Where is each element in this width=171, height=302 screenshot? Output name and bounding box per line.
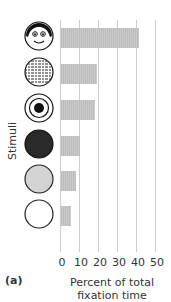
bar <box>61 136 80 156</box>
gridline <box>136 20 137 252</box>
gridline <box>117 20 118 252</box>
x-tick-label: 20 <box>93 256 107 269</box>
x-tick-label: 0 <box>59 256 66 269</box>
x-tick-label: 30 <box>112 256 126 269</box>
bullseye-stimulus-icon <box>24 93 54 123</box>
panel-label: (a) <box>5 274 22 287</box>
bar <box>61 64 97 84</box>
bar <box>61 171 76 191</box>
y-axis-label: Stimuli <box>6 122 19 160</box>
x-tick-label: 10 <box>74 256 88 269</box>
x-axis-label: Percent of total fixation time <box>62 276 162 302</box>
black-disk-stimulus-icon <box>24 129 54 159</box>
text-stimulus-icon <box>24 57 54 87</box>
gridline <box>98 20 99 252</box>
white-disk-stimulus-icon <box>24 199 54 229</box>
plot-area <box>60 20 160 252</box>
x-tick-label: 50 <box>150 256 164 269</box>
x-tick-label: 40 <box>131 256 145 269</box>
bar <box>61 206 71 226</box>
bar <box>61 100 95 120</box>
gray-disk-stimulus-icon <box>24 164 54 194</box>
x-axis-label-line1: Percent of total <box>62 276 162 289</box>
bar <box>61 28 139 48</box>
face-stimulus-icon <box>24 21 54 51</box>
x-axis-label-line2: fixation time <box>62 289 162 302</box>
gridline <box>155 20 156 252</box>
